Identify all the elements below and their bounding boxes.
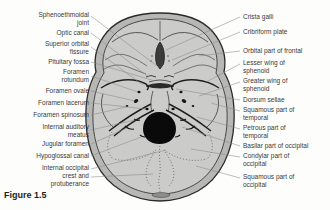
- foramen-lacerum-right: [171, 108, 174, 111]
- foramen-spinosum-right: [192, 105, 195, 107]
- label-optic-canal: Optic canal: [56, 29, 89, 37]
- label-crista-galli: Crista galli: [243, 13, 273, 21]
- label-greater-wing-sphenoid: Greater wing of sphenoid: [243, 77, 293, 93]
- label-internal-auditory-meatus: Internal auditory meatus: [35, 123, 89, 139]
- label-petrous-part-temporal: Petrous part of temporal: [243, 124, 293, 140]
- label-jugular-foramen: Jugular foramen: [42, 140, 89, 148]
- figure-page: Sphenoethmoidal joint Optic canal Superi…: [0, 0, 330, 210]
- label-sphenoethmoidal-joint: Sphenoethmoidal joint: [37, 11, 89, 27]
- label-foramen-rotundum: Foramen rotundum: [51, 68, 89, 84]
- label-foramen-lacerum: Foramen lacerum: [38, 99, 89, 107]
- label-foramen-ovale: Foramen ovale: [46, 87, 89, 95]
- label-cribriform-plate: Cribriform plate: [243, 28, 287, 36]
- label-squamous-part-temporal: Squamous part of temporal: [243, 106, 299, 122]
- label-foramen-spinosum: Foramen spinosum: [33, 111, 89, 119]
- internal-occipital-protuberance: [152, 193, 170, 198]
- label-lesser-wing-sphenoid: Lesser wing of sphenoid: [243, 59, 291, 75]
- label-basilar-part-occipital: Basilar part of occipital: [243, 142, 308, 150]
- foramen-rotundum-right: [179, 91, 182, 93]
- label-orbital-part-frontal: Orbital part of frontal: [243, 47, 302, 55]
- label-pituitary-fossa: Pituitary fossa: [48, 58, 89, 66]
- label-internal-occipital-crest: Internal occipital crest and protuberanc…: [33, 164, 89, 187]
- label-hypoglossal-canal: Hypoglossal canal: [36, 152, 89, 160]
- label-dorsum-sellae: Dorsum sellae: [243, 96, 285, 104]
- label-condylar-part-occipital: Condylar part of occipital: [243, 152, 295, 168]
- figure-caption: Figure 1.5: [4, 190, 47, 200]
- label-squamous-part-occipital: Squamous part of occipital: [243, 173, 299, 189]
- skull-drawing: [86, 13, 234, 201]
- label-superior-orbital-fissure: Superior orbital fissure: [37, 40, 89, 56]
